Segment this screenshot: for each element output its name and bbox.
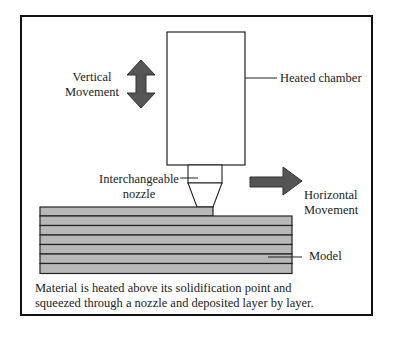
layer xyxy=(40,235,292,245)
layer-top xyxy=(40,207,213,216)
horizontal-movement-label: Horizontal Movement xyxy=(304,188,358,218)
horizontal-arrow-icon xyxy=(250,167,302,195)
caption: Material is heated above its solidificat… xyxy=(35,281,314,311)
heated-chamber xyxy=(167,32,245,165)
heated-chamber-label: Heated chamber xyxy=(280,71,362,86)
nozzle xyxy=(188,165,222,207)
model-label: Model xyxy=(309,249,342,264)
vertical-movement-label: Vertical Movement xyxy=(62,70,122,100)
layer xyxy=(40,226,292,236)
layer xyxy=(40,254,292,264)
nozzle-label: Interchangeable nozzle xyxy=(96,172,182,202)
vertical-arrow-icon xyxy=(127,60,155,108)
layer xyxy=(40,264,292,274)
layer xyxy=(40,216,292,226)
model-layers xyxy=(40,207,292,274)
layer xyxy=(40,245,292,255)
